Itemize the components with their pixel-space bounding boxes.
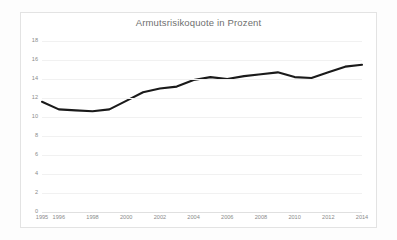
x-axis-line [42,212,362,213]
gridline-y-12 [42,98,362,99]
gridline-y-4 [42,174,362,175]
y-tick-label: 6 [18,152,38,158]
y-tick-label: 2 [18,190,38,196]
chart-container: Armutsrisikoquote in Prozent 18161412108… [0,0,397,240]
gridline-y-14 [42,79,362,80]
line-series-armutsrisikoquote [42,65,362,112]
x-axis-tick-labels: 1995199619982000200220042006200820102012… [42,215,362,229]
y-tick-label: 12 [18,95,38,101]
x-tick-label: 2014 [356,215,368,221]
y-tick-label: 16 [18,57,38,63]
gridline-y-8 [42,136,362,137]
x-tick-label: 1996 [53,215,65,221]
x-tick-label: 2004 [187,215,199,221]
y-axis-tick-labels: 181614121086420 [16,41,38,212]
line-series-svg [42,41,362,212]
y-tick-label: 14 [18,76,38,82]
gridline-y-6 [42,155,362,156]
x-tick-label: 2002 [154,215,166,221]
x-tick-label: 1998 [86,215,98,221]
gridline-y-18 [42,41,362,42]
y-tick-label: 4 [18,171,38,177]
x-tick-label: 1995 [36,215,48,221]
x-tick-label: 2008 [255,215,267,221]
x-tick-label: 2010 [288,215,300,221]
gridline-y-2 [42,193,362,194]
y-tick-label: 10 [18,114,38,120]
gridline-y-16 [42,60,362,61]
x-tick-label: 2012 [322,215,334,221]
x-tick-label: 2000 [120,215,132,221]
y-tick-label: 18 [18,38,38,44]
chart-title: Armutsrisikoquote in Prozent [20,17,377,28]
gridline-y-10 [42,117,362,118]
plot-area [42,41,362,212]
x-tick-label: 2006 [221,215,233,221]
y-tick-label: 8 [18,133,38,139]
